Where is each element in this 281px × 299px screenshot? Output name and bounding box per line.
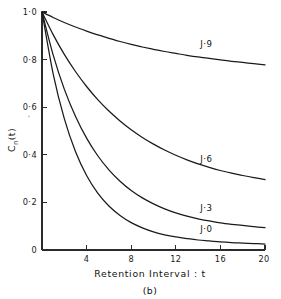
x-tick-label-16: 16: [215, 254, 226, 264]
line-chart: 1·0 0·8 0·6 0·4 0·2 0 4 8 12 16 20 J·9 J…: [0, 0, 281, 299]
y-tick-label-1-0: 1·0: [23, 7, 37, 17]
y-axis-title-group: Cn(t) ′: [6, 114, 33, 152]
curve-j-0: [42, 12, 265, 244]
x-tick-label-12: 12: [170, 254, 181, 264]
curve-label-j-3: J·3: [199, 203, 212, 213]
y-tick-labels: 1·0 0·8 0·6 0·4 0·2 0: [23, 7, 37, 255]
figure-panel-b: 1·0 0·8 0·6 0·4 0·2 0 4 8 12 16 20 J·9 J…: [0, 0, 281, 299]
x-axis-ticks: [87, 245, 265, 250]
y-tick-label-0-6: 0·6: [23, 102, 37, 112]
curve-j-3: [42, 12, 265, 228]
y-tick-label-0-2: 0·2: [23, 197, 37, 207]
curve-labels: J·9 J·6 J·3 J·0: [199, 39, 212, 235]
curve-label-j-0: J·0: [199, 224, 212, 234]
x-tick-label-20: 20: [258, 254, 269, 264]
y-tick-label-0: 0: [31, 245, 37, 255]
curve-label-j-6: J·6: [199, 154, 212, 164]
panel-caption: (b): [143, 285, 157, 296]
y-axis-title-base: C: [6, 145, 17, 152]
x-tick-label-4: 4: [84, 254, 90, 264]
prime-mark-icon: ′: [27, 114, 32, 124]
curve-j-6: [42, 12, 265, 180]
y-axis-title-arg: (t): [6, 128, 17, 140]
y-axis-ticks: [42, 12, 47, 202]
x-tick-label-8: 8: [128, 254, 134, 264]
y-tick-label-0-8: 0·8: [23, 55, 37, 65]
data-curves: [42, 12, 265, 244]
y-tick-label-0-4: 0·4: [23, 150, 37, 160]
y-axis-title: Cn(t): [6, 128, 20, 152]
curve-j-9: [42, 12, 265, 65]
curve-label-j-9: J·9: [199, 39, 212, 49]
x-tick-labels: 4 8 12 16 20: [84, 254, 270, 264]
axes: [42, 12, 265, 250]
x-axis-title: Retention Interval : t: [94, 268, 205, 279]
